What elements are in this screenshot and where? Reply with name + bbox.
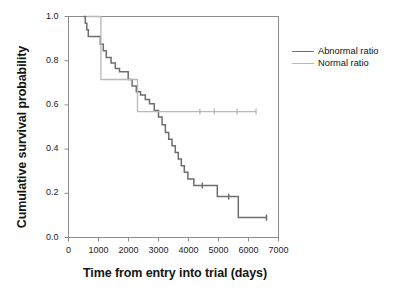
- legend-label-normal-ratio: Normal ratio: [318, 58, 369, 69]
- legend-line-swatch-normal: [292, 63, 314, 64]
- x-axis-tick-label: 2000: [112, 245, 146, 255]
- chart-legend: Abnormal ratio Normal ratio: [292, 46, 398, 70]
- x-axis-tick-label: 6000: [232, 245, 266, 255]
- legend-label-abnormal-ratio: Abnormal ratio: [318, 46, 378, 57]
- y-axis-tick-label: 0.4: [33, 143, 59, 153]
- x-axis-tick-label: 5000: [202, 245, 236, 255]
- x-axis-tick-label: 4000: [172, 245, 206, 255]
- x-axis-tick-label: 1000: [82, 245, 116, 255]
- y-axis-title: Cumulative survival probability: [11, 17, 33, 257]
- y-axis-tick-label: 1.0: [33, 11, 59, 21]
- x-axis-tick-label: 7000: [262, 245, 296, 255]
- y-axis-tick-label: 0.8: [33, 55, 59, 65]
- survival-curve-abnormal-ratio: [84, 17, 267, 218]
- plot-frame: [69, 17, 279, 238]
- y-axis-tick-label: 0.2: [33, 187, 59, 197]
- x-axis-tick-label: 0: [52, 245, 86, 255]
- legend-item-normal-ratio: Normal ratio: [292, 58, 398, 69]
- survival-chart-figure: Cumulative survival probability Time fro…: [0, 0, 401, 294]
- survival-curve-normal-ratio: [87, 17, 256, 112]
- y-axis-tick-label: 0.6: [33, 99, 59, 109]
- y-axis-tick-label: 0.0: [33, 232, 59, 242]
- legend-line-swatch-abnormal: [292, 51, 314, 52]
- legend-item-abnormal-ratio: Abnormal ratio: [292, 46, 398, 57]
- x-axis-tick-label: 3000: [142, 245, 176, 255]
- x-axis-title: Time from entry into trial (days): [58, 266, 292, 280]
